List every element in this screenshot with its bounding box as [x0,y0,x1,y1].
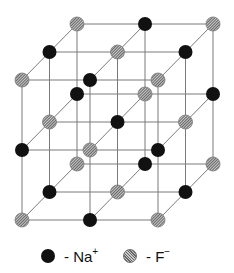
f-ion-atom [70,157,84,171]
legend-label-na: - Na+ [64,247,98,265]
f-ion-atom [111,45,125,59]
na-ion-atom [111,115,125,129]
legend-item-na: - Na+ [41,244,98,268]
na-ion-atom [70,87,84,101]
na-ion-icon [41,249,55,263]
f-ion-atom [151,213,165,227]
na-ion-atom [138,157,152,171]
f-ion-atom [15,213,29,227]
f-ion-atom [206,157,220,171]
na-ion-atom [43,45,57,59]
legend: - Na+ - F− [0,244,234,268]
na-ion-atom [179,45,193,59]
lattice-atoms [15,17,220,227]
crystal-lattice-diagram [0,0,234,240]
na-ion-atom [138,17,152,31]
na-ion-atom [206,87,220,101]
f-ion-atom [43,115,57,129]
f-ion-atom [206,17,220,31]
na-ion-atom [43,185,57,199]
na-ion-atom [179,185,193,199]
na-ion-atom [151,143,165,157]
f-ion-atom [15,73,29,87]
na-ion-atom [15,143,29,157]
f-ion-atom [138,87,152,101]
f-ion-atom [179,115,193,129]
f-ion-atom [83,143,97,157]
legend-item-f: - F− [123,244,170,268]
f-ion-icon [123,249,137,263]
f-ion-atom [151,73,165,87]
na-ion-atom [83,213,97,227]
f-ion-atom [70,17,84,31]
legend-label-f: - F− [146,247,170,265]
na-ion-atom [83,73,97,87]
f-ion-atom [111,185,125,199]
